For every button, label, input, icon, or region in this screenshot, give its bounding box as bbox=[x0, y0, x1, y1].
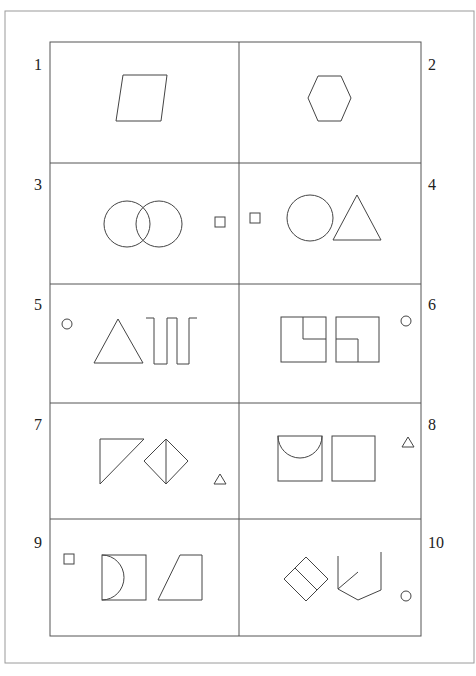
panel-6 bbox=[281, 316, 411, 362]
panel-number-10: 10 bbox=[428, 534, 444, 551]
open-polyline-shape bbox=[338, 552, 381, 600]
semicircle-shape bbox=[102, 555, 124, 600]
circle-shape-right bbox=[136, 201, 182, 247]
small-square-shape bbox=[250, 213, 260, 223]
panel-8 bbox=[278, 436, 414, 481]
small-triangle-shape bbox=[402, 437, 414, 447]
square-shape-right bbox=[332, 436, 375, 481]
panel-number-2: 2 bbox=[428, 56, 436, 73]
panel-5 bbox=[62, 318, 197, 364]
panel-7 bbox=[100, 439, 226, 484]
inner-corner-line bbox=[303, 317, 326, 339]
polyline-spoke bbox=[338, 572, 358, 589]
right-triangle-shape bbox=[100, 439, 144, 484]
hexagon-shape bbox=[308, 76, 351, 121]
inner-corner-line bbox=[336, 339, 358, 362]
panel-number-7: 7 bbox=[34, 416, 42, 433]
panel-4 bbox=[250, 195, 381, 241]
panel-number-8: 8 bbox=[428, 416, 436, 433]
panel-2 bbox=[308, 76, 351, 121]
small-circle-shape bbox=[401, 591, 411, 601]
small-square-shape bbox=[215, 217, 225, 227]
panel-1 bbox=[116, 75, 167, 121]
panel-number-6: 6 bbox=[428, 296, 436, 313]
right-trapezoid-shape bbox=[158, 555, 202, 600]
small-square-shape bbox=[64, 554, 74, 564]
circle-shape bbox=[287, 195, 333, 241]
panel-9 bbox=[64, 554, 202, 600]
panel-number-1: 1 bbox=[34, 56, 42, 73]
grid-border bbox=[50, 42, 421, 636]
panel-10 bbox=[284, 552, 411, 601]
puzzle-sheet: 1 2 3 4 5 6 7 8 9 10 bbox=[0, 0, 476, 676]
triangle-shape bbox=[333, 195, 381, 240]
tilted-rectangle-divider bbox=[295, 568, 317, 590]
triangle-shape bbox=[94, 319, 143, 363]
panel-3 bbox=[104, 201, 225, 247]
panel-number-9: 9 bbox=[34, 534, 42, 551]
panel-number-4: 4 bbox=[428, 176, 436, 193]
parallelogram-shape bbox=[116, 75, 167, 121]
panel-number-5: 5 bbox=[34, 296, 42, 313]
panel-number-3: 3 bbox=[34, 176, 42, 193]
square-wave-shape bbox=[146, 318, 197, 364]
grid bbox=[50, 42, 421, 636]
small-circle-shape bbox=[401, 316, 411, 326]
small-triangle-shape bbox=[214, 474, 226, 484]
semicircle-shape bbox=[278, 436, 322, 458]
small-circle-shape bbox=[62, 319, 72, 329]
